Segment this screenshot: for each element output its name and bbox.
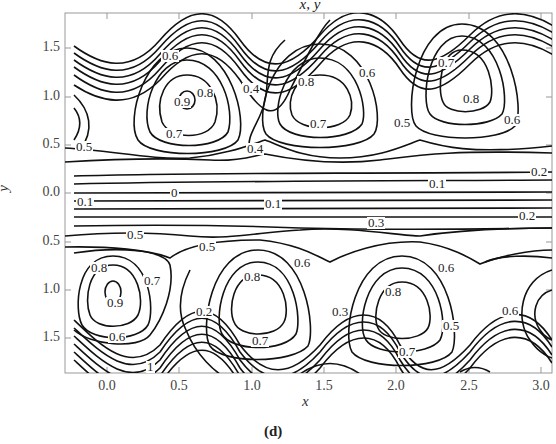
y-tick-label: 0.5 — [24, 233, 60, 249]
y-tick-label: 0.5 — [24, 136, 60, 152]
contour-label: 0.1 — [264, 198, 282, 210]
contour-label: 0.8 — [196, 87, 214, 99]
contour-label: 0.1 — [428, 178, 446, 190]
contour-label: 0.2 — [530, 166, 548, 178]
contour-label: 0.5 — [442, 320, 460, 332]
contour-label: 1 — [146, 361, 155, 373]
contour-label: 0.8 — [384, 286, 402, 298]
contour-label: 0.3 — [367, 217, 385, 229]
contour-label: 0.8 — [297, 76, 315, 88]
contour-label: 0.1 — [76, 196, 94, 208]
contour-label: 0.4 — [242, 83, 260, 95]
contour-label: 0.6 — [501, 305, 519, 317]
y-tick-label: 1.5 — [24, 39, 60, 55]
contour-label: 0.7 — [165, 128, 183, 140]
contour-label: 0.3 — [331, 306, 349, 318]
figure-caption: (d) — [264, 423, 282, 440]
contour-label: 0.7 — [309, 118, 327, 130]
contour-label: 0.5 — [126, 229, 144, 241]
contour-label: 0.7 — [251, 335, 269, 347]
contour-label: 0.5 — [198, 241, 216, 253]
x-tick-label: 0.0 — [87, 378, 127, 394]
contour-label: 0.8 — [462, 93, 480, 105]
x-tick-label: 1.5 — [304, 378, 344, 394]
contour-label: 0.7 — [437, 57, 455, 69]
contour-label: 0.5 — [393, 117, 411, 129]
contour-label: 0.7 — [398, 346, 416, 358]
contour-label: 0.7 — [143, 275, 161, 287]
contour-label: 0.2 — [518, 210, 536, 222]
x-tick-label: 0.5 — [159, 378, 199, 394]
y-tick-label: 1.0 — [24, 88, 60, 104]
contour-label: 0.6 — [358, 67, 376, 79]
y-axis-label: y — [0, 185, 12, 192]
x-tick-label: 2.5 — [449, 378, 489, 394]
contour-label: 0.5 — [75, 141, 93, 153]
contour-label: 0.9 — [106, 297, 124, 309]
contour-label: 0.8 — [90, 262, 108, 274]
y-tick-label: 1.0 — [24, 281, 60, 297]
x-tick-label: 3.0 — [521, 378, 556, 394]
contour-label: 0.6 — [108, 331, 126, 343]
y-tick-label: 1.5 — [24, 329, 60, 345]
contour-lines — [65, 13, 556, 397]
contour-label: 0.4 — [246, 143, 264, 155]
contour-label: 0.8 — [243, 271, 261, 283]
contour-label: 0.6 — [161, 50, 179, 62]
contour-label: 0.2 — [195, 306, 213, 318]
x-tick-label: 1.0 — [232, 378, 272, 394]
contour-label: 0.6 — [503, 114, 521, 126]
x-axis-label: x — [302, 393, 309, 410]
contour-label: 0.6 — [437, 262, 455, 274]
contour-label: 0.6 — [293, 257, 311, 269]
chart-title: x, y — [270, 0, 350, 13]
y-tick-label: 0.0 — [24, 184, 60, 200]
contour-label: 0.9 — [173, 96, 191, 108]
x-tick-label: 2.0 — [376, 378, 416, 394]
contour-label: 0 — [170, 187, 179, 199]
